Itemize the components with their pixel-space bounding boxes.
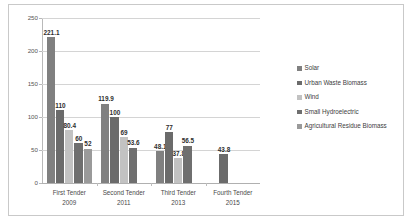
legend-swatch-icon: [297, 110, 302, 115]
legend-swatch-icon: [297, 95, 302, 100]
legend-item-label: Urban Waste Biomass: [305, 80, 367, 86]
bar: 37.8: [174, 158, 182, 183]
bar: 119.9: [101, 104, 109, 183]
x-axis-label: Second Tender2011: [97, 188, 152, 208]
x-axis-category-name: Fourth Tender: [206, 188, 261, 198]
x-axis-label: First Tender2009: [42, 188, 97, 208]
bar: 77: [165, 132, 173, 183]
bar-group: 48.17737.856.5: [151, 18, 206, 183]
x-tick-mark: [151, 183, 152, 186]
bar-value-label: 110: [55, 103, 65, 109]
bar: 60: [74, 143, 82, 183]
x-axis-category-year: 2015: [206, 198, 261, 208]
x-tick-mark: [206, 183, 207, 186]
bar: 56.5: [183, 146, 191, 183]
legend-item-label: Agricultural Residue Biomass: [305, 123, 387, 129]
y-tick-label: 50: [31, 147, 38, 153]
y-tick-mark: [39, 183, 42, 184]
bar: 80.4: [65, 130, 73, 183]
bar-group: 119.91006953.6: [97, 18, 152, 183]
legend-swatch-icon: [297, 124, 302, 129]
bar-group: 43.8: [206, 18, 261, 183]
bar: 100: [110, 117, 118, 183]
legend-item-label: Solar: [305, 65, 320, 71]
bar: 48.1: [156, 151, 164, 183]
legend-item[interactable]: Wind: [297, 90, 401, 105]
x-axis-category-name: First Tender: [42, 188, 97, 198]
bar-value-label: 100: [110, 110, 121, 116]
bar-value-label: 77: [166, 125, 173, 131]
bar-value-label: 119.9: [98, 96, 114, 102]
plot-area: 050100150200250 221.111080.46052119.9100…: [42, 18, 260, 183]
legend-item[interactable]: Urban Waste Biomass: [297, 76, 401, 91]
y-tick-label: 150: [28, 81, 38, 87]
bar-value-label: 69: [120, 130, 127, 136]
x-axis-category-name: Second Tender: [97, 188, 152, 198]
x-axis-category-name: Third Tender: [151, 188, 206, 198]
x-axis-category-year: 2013: [151, 198, 206, 208]
x-axis-category-year: 2011: [97, 198, 152, 208]
bar: 43.8: [219, 154, 227, 183]
x-axis-category-year: 2009: [42, 198, 97, 208]
chart-legend: SolarUrban Waste BiomassWindSmall Hydroe…: [297, 61, 401, 134]
bar-value-label: 221.1: [43, 30, 59, 36]
bar-value-label: 60: [75, 136, 82, 142]
chart-container: 050100150200250 221.111080.46052119.9100…: [8, 4, 404, 216]
legend-item[interactable]: Solar: [297, 61, 401, 76]
x-axis-label: Fourth Tender2015: [206, 188, 261, 208]
y-tick-label: 250: [28, 15, 38, 21]
bar-value-label: 53.6: [127, 140, 139, 146]
bar-group: 221.111080.46052: [42, 18, 97, 183]
y-tick-label: 100: [28, 114, 38, 120]
x-tick-mark: [97, 183, 98, 186]
legend-swatch-icon: [297, 66, 302, 71]
bar-value-label: 43.8: [218, 147, 230, 153]
bar: 52: [84, 149, 92, 183]
bar-value-label: 56.5: [182, 138, 194, 144]
legend-item[interactable]: Agricultural Residue Biomass: [297, 119, 401, 134]
y-tick-label: 0: [35, 180, 38, 186]
bar-value-label: 80.4: [64, 123, 76, 129]
legend-item-label: Wind: [305, 94, 319, 100]
bar-value-label: 52: [84, 141, 91, 147]
y-tick-label: 200: [28, 48, 38, 54]
bar: 53.6: [129, 148, 137, 183]
x-axis-label: Third Tender2013: [151, 188, 206, 208]
legend-item-label: Small Hydroelectric: [305, 109, 359, 115]
legend-item[interactable]: Small Hydroelectric: [297, 105, 401, 120]
bar: 221.1: [47, 37, 55, 183]
legend-swatch-icon: [297, 81, 302, 86]
